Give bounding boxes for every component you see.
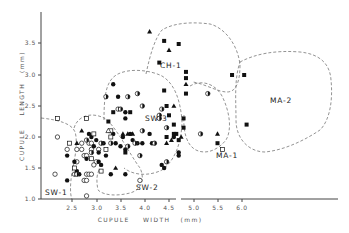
filled-triangle-marker xyxy=(113,165,118,169)
half-filled-circle-marker xyxy=(89,150,93,154)
y-tick-label: 3.5 xyxy=(25,39,36,46)
filled-circle-marker xyxy=(72,160,76,164)
open-circle-marker xyxy=(53,172,57,176)
region-label-ch1: CH-1 xyxy=(160,61,182,70)
filled-square-marker xyxy=(184,92,188,96)
filled-square-marker xyxy=(242,73,246,77)
open-circle-marker xyxy=(84,178,88,182)
open-circle-marker xyxy=(55,135,59,139)
region-label-ma2: MA-2 xyxy=(270,96,292,105)
filled-square-marker xyxy=(165,104,169,108)
half-filled-circle-marker xyxy=(75,172,79,176)
filled-circle-marker xyxy=(65,178,69,182)
filled-triangle-marker xyxy=(74,141,79,145)
open-square-marker xyxy=(89,157,93,161)
region-sw3-boundary xyxy=(104,70,182,174)
filled-square-marker xyxy=(182,126,186,130)
half-filled-circle-marker xyxy=(206,91,210,95)
half-filled-circle-marker xyxy=(133,141,137,145)
y-tick-label: 1.0 xyxy=(25,195,36,202)
half-filled-circle-marker xyxy=(126,144,130,148)
open-square-marker xyxy=(104,147,108,151)
x-tick-label: 3.5 xyxy=(115,204,126,211)
filled-circle-marker xyxy=(118,144,122,148)
x-axis-title: CUPULE WIDTH (mm) xyxy=(98,216,203,223)
region-label-sw1: SW-1 xyxy=(45,188,68,197)
filled-square-marker xyxy=(128,110,132,114)
filled-square-marker xyxy=(123,151,127,155)
open-circle-marker xyxy=(80,141,84,145)
y-tick-label: 2.0 xyxy=(25,133,36,140)
filled-triangle-marker xyxy=(179,134,184,138)
half-filled-circle-marker xyxy=(157,116,161,120)
half-filled-circle-marker xyxy=(118,107,122,111)
filled-triangle-marker xyxy=(183,82,188,86)
half-filled-circle-marker xyxy=(109,141,113,145)
half-filled-circle-marker xyxy=(198,132,202,136)
filled-square-marker xyxy=(157,61,161,65)
open-square-marker xyxy=(68,141,72,145)
open-square-marker xyxy=(99,169,103,173)
half-filled-circle-marker xyxy=(138,153,142,157)
filled-square-marker xyxy=(162,89,166,93)
filled-triangle-marker xyxy=(79,128,84,132)
filled-triangle-marker xyxy=(120,131,125,135)
open-circle-marker xyxy=(75,147,79,151)
filled-circle-marker xyxy=(96,150,100,154)
filled-circle-marker xyxy=(111,82,115,86)
y-tick-label: 2.5 xyxy=(25,102,36,109)
filled-circle-marker xyxy=(99,163,103,167)
half-filled-circle-marker xyxy=(99,141,103,145)
filled-circle-marker xyxy=(113,141,117,145)
x-tick-label: 5.0 xyxy=(188,204,199,211)
open-circle-marker xyxy=(80,147,84,151)
open-square-marker xyxy=(92,132,96,136)
open-circle-marker xyxy=(138,178,142,182)
y-axis-title: CUPULE LENGTH (mm) xyxy=(18,51,25,161)
filled-square-marker xyxy=(162,39,166,43)
filled-circle-marker xyxy=(177,153,181,157)
region-label-sw3: SW-3 xyxy=(145,114,168,123)
x-tick-label: 4.0 xyxy=(139,204,150,211)
half-filled-circle-marker xyxy=(164,126,168,130)
filled-circle-marker xyxy=(104,153,108,157)
y-tick-label: 3.0 xyxy=(25,71,36,78)
x-tick-label: 3.0 xyxy=(91,204,102,211)
filled-triangle-marker xyxy=(171,103,176,107)
filled-square-marker xyxy=(172,123,176,127)
half-filled-circle-marker xyxy=(104,95,108,99)
x-ticks: 2.5 3.0 3.5 4.0 4.5 5.0 5.5 6.0 xyxy=(66,199,247,211)
half-filled-circle-marker xyxy=(140,104,144,108)
filled-square-marker xyxy=(216,141,220,145)
filled-circle-marker xyxy=(140,141,144,145)
filled-circle-marker xyxy=(116,95,120,99)
open-square-marker xyxy=(55,116,59,120)
region-label-sw2: SW-2 xyxy=(136,183,159,192)
y-ticks: 1.0 1.5 2.0 2.5 3.0 3.5 xyxy=(25,39,41,202)
filled-circle-marker xyxy=(109,172,113,176)
scatter-chart: 1.0 1.5 2.0 2.5 3.0 3.5 2.5 3.0 3.5 4.0 … xyxy=(0,0,349,233)
filled-circle-marker xyxy=(123,110,127,114)
half-filled-circle-marker xyxy=(140,129,144,133)
half-filled-circle-marker xyxy=(160,107,164,111)
y-tick-label: 1.5 xyxy=(25,164,36,171)
open-square-marker xyxy=(72,166,76,170)
open-square-marker xyxy=(85,116,89,120)
region-sw1-boundary xyxy=(41,118,76,199)
filled-square-marker xyxy=(245,123,249,127)
half-filled-circle-marker xyxy=(164,160,168,164)
filled-triangle-marker xyxy=(167,48,172,52)
filled-circle-marker xyxy=(92,144,96,148)
x-tick-label: 4.5 xyxy=(163,204,174,211)
open-circle-marker xyxy=(92,163,96,167)
filled-circle-marker xyxy=(84,157,88,161)
filled-circle-marker xyxy=(162,166,166,170)
half-filled-circle-marker xyxy=(126,95,130,99)
x-tick-label: 6.0 xyxy=(236,204,247,211)
filled-square-marker xyxy=(165,135,169,139)
region-ch1-boundary xyxy=(146,23,240,92)
filled-square-marker xyxy=(184,70,188,74)
open-square-marker xyxy=(220,147,224,151)
half-filled-circle-marker xyxy=(135,91,139,95)
filled-square-marker xyxy=(184,76,188,80)
